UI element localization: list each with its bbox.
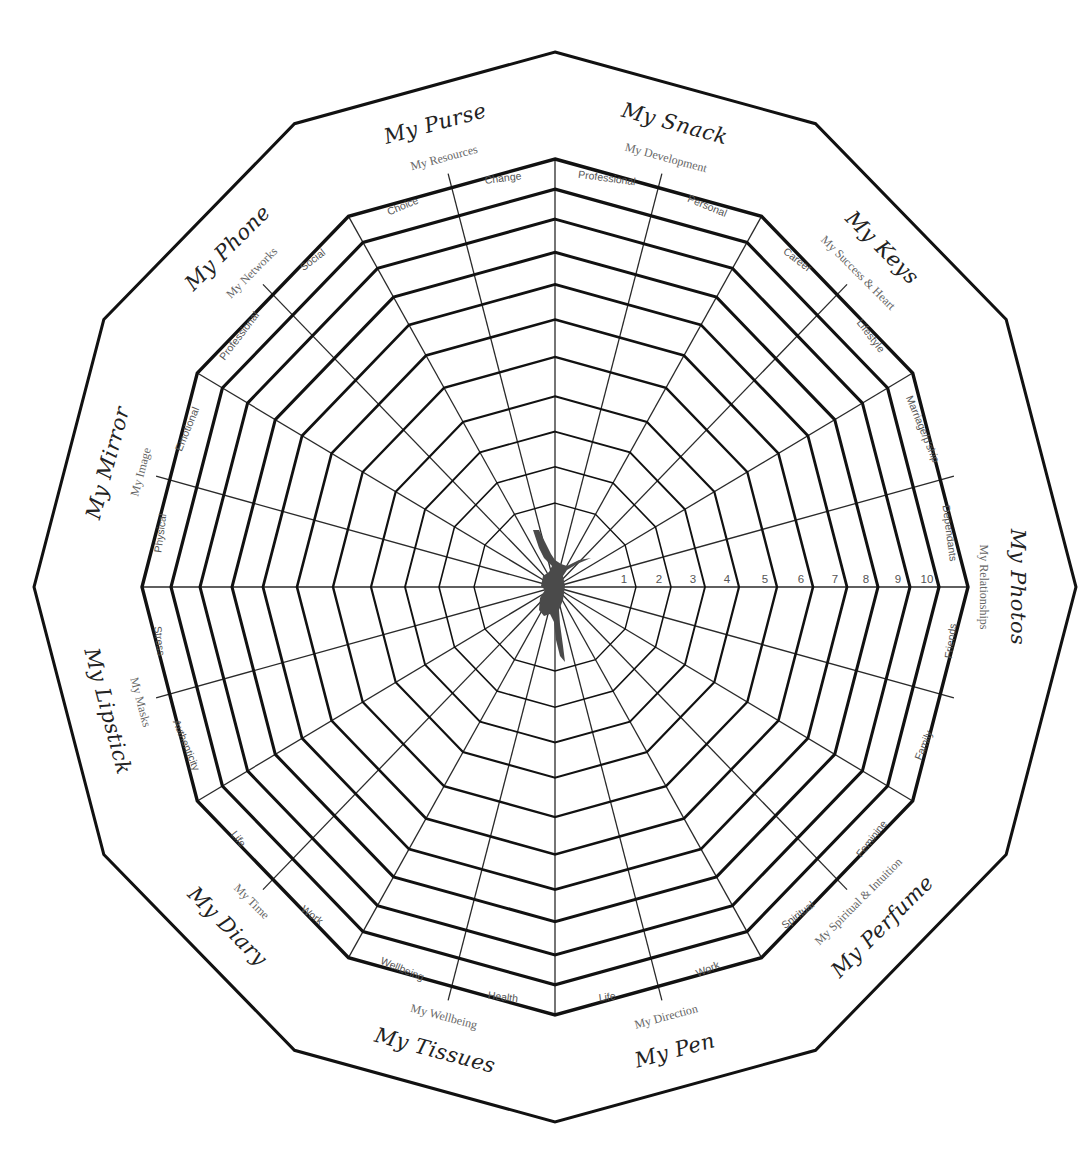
category-subtitle: My Relationships xyxy=(977,544,991,629)
scale-number: 2 xyxy=(656,573,662,585)
scale-number: 9 xyxy=(895,573,901,585)
scale-number: 3 xyxy=(690,573,696,585)
scale-number: 8 xyxy=(863,573,869,585)
scale-number: 1 xyxy=(621,573,627,585)
life-wheel-diagram: 12345678910 ProfessionalPersonalCareerLi… xyxy=(0,0,1086,1149)
scale-number: 7 xyxy=(832,573,838,585)
category-title: My Photos xyxy=(1006,528,1030,646)
subcategory-label: Life xyxy=(598,989,617,1003)
scale-number: 5 xyxy=(762,573,768,585)
scale-number: 10 xyxy=(921,573,934,585)
scale-number: 4 xyxy=(724,573,731,585)
scale-number: 6 xyxy=(798,573,804,585)
